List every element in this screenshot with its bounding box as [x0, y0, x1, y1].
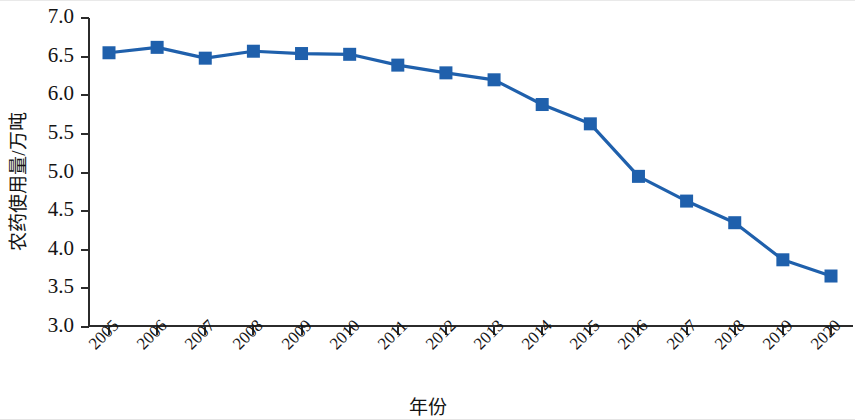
data-point-marker	[343, 48, 356, 61]
y-axis-tick-label: 3.0	[48, 313, 74, 337]
y-axis-tick-label: 3.5	[48, 274, 74, 298]
y-axis-tick-label: 6.5	[48, 43, 74, 67]
series-line-chart	[88, 18, 853, 327]
chart-figure: 农药使用量/万吨 3.03.54.04.55.05.56.06.57.0 200…	[0, 0, 855, 420]
data-point-marker	[776, 253, 789, 266]
y-axis-title: 农药使用量/万吨	[3, 82, 30, 282]
y-axis-tick-label: 6.0	[48, 81, 74, 105]
y-axis-tick-label: 4.0	[48, 236, 74, 260]
y-axis-tick-label: 7.0	[48, 4, 74, 28]
plot-area: 3.03.54.04.55.05.56.06.57.0 200520062007…	[88, 18, 853, 327]
data-point-marker	[151, 41, 164, 54]
data-point-marker	[295, 47, 308, 60]
data-point-marker	[536, 98, 549, 111]
data-point-marker	[825, 270, 838, 283]
data-point-marker	[728, 216, 741, 229]
data-point-marker	[439, 66, 452, 79]
x-axis-title: 年份	[0, 392, 855, 419]
y-axis-tick-label: 5.5	[48, 120, 74, 144]
data-point-marker	[632, 170, 645, 183]
y-axis-tick-label: 5.0	[48, 159, 74, 183]
data-point-marker	[680, 195, 693, 208]
scan-edge-top	[0, 0, 855, 1]
data-point-marker	[584, 117, 597, 130]
y-axis-tick-label: 4.5	[48, 197, 74, 221]
data-point-marker	[103, 46, 116, 59]
series-line-path	[109, 47, 831, 276]
data-point-marker	[199, 52, 212, 65]
data-point-marker	[391, 59, 404, 72]
data-point-marker	[247, 45, 260, 58]
data-point-marker	[488, 73, 501, 86]
